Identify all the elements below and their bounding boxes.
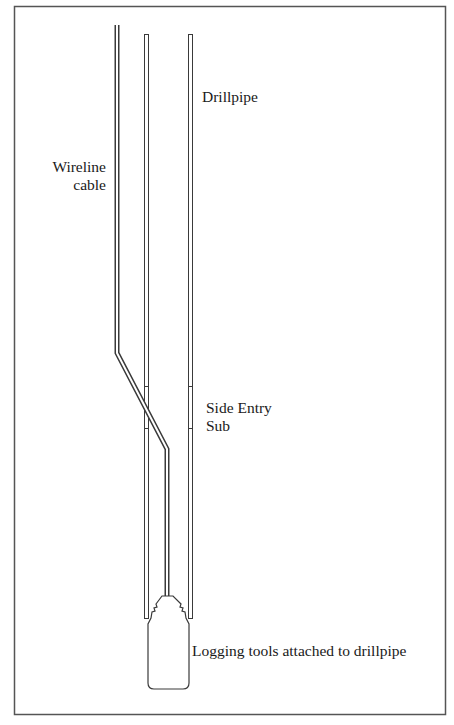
side-entry-sub-diagram: Drillpipe Wireline cable Side Entry Sub … bbox=[0, 0, 454, 725]
wireline-label-line2: cable bbox=[73, 176, 106, 193]
drillpipe-label: Drillpipe bbox=[202, 88, 258, 105]
wireline-label-line1: Wireline bbox=[52, 158, 106, 175]
side-entry-sub-label-line1: Side Entry bbox=[206, 399, 272, 416]
drillpipe-left-wall bbox=[145, 35, 149, 619]
drillpipe-right-wall bbox=[189, 35, 193, 619]
figure-frame bbox=[15, 7, 446, 715]
logging-tools-label: Logging tools attached to drillpipe bbox=[192, 642, 406, 659]
logging-tools bbox=[148, 596, 189, 689]
logging-tool-body bbox=[148, 596, 189, 689]
side-entry-sub-label-line2: Sub bbox=[206, 417, 230, 434]
